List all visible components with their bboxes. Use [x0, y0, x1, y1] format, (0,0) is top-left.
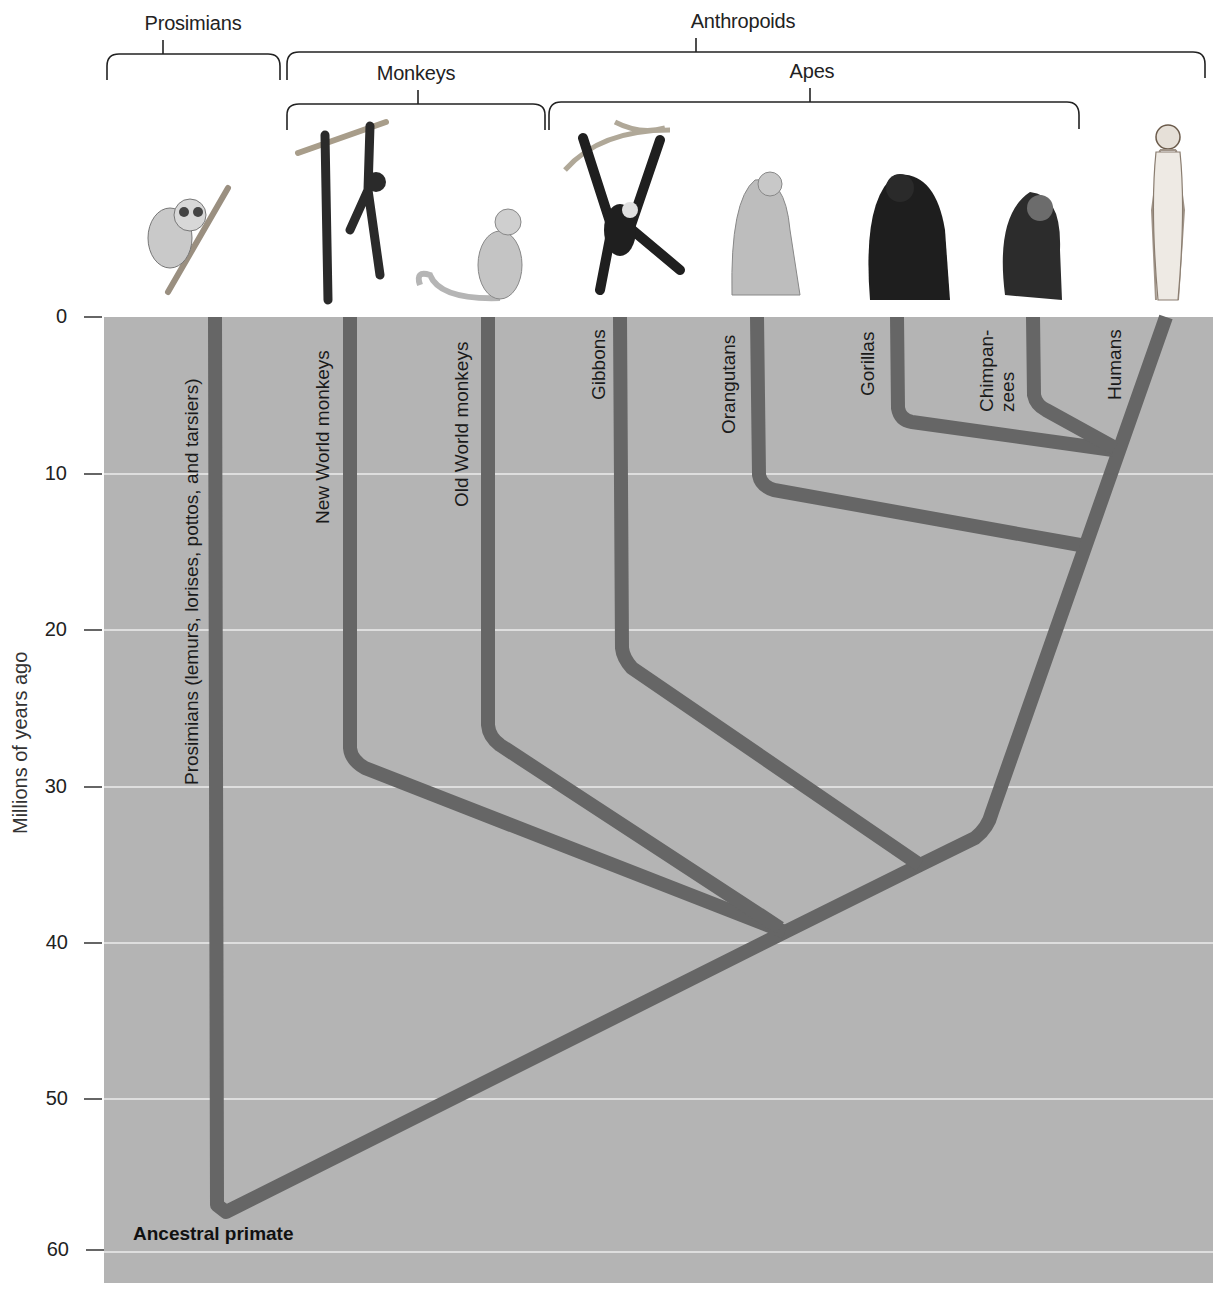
gorilla-illustration: [868, 174, 950, 300]
loris-illustration: [148, 188, 228, 292]
branch-label-prosimians: Prosimians (lemurs, lorises, pottos, and…: [181, 378, 202, 785]
chimpanzee-illustration: [1003, 192, 1062, 300]
orangutan-illustration: [732, 172, 800, 295]
group-label-prosimians: Prosimians: [145, 12, 242, 35]
branch-label-new-world-monkeys: New World monkeys: [312, 350, 333, 524]
tick-label-20: 20: [17, 618, 67, 641]
y-axis-title: Millions of years ago: [9, 652, 32, 834]
group-brackets: [107, 38, 1205, 130]
tick-label-60: 60: [19, 1238, 69, 1261]
branch-label-gibbons: Gibbons: [588, 329, 609, 400]
branch-label-gorillas: Gorillas: [857, 332, 878, 396]
plot-area: [104, 317, 1213, 1283]
gibbon-illustration: [565, 122, 680, 290]
branch-label-humans: Humans: [1104, 329, 1125, 400]
human-illustration: [1152, 125, 1184, 300]
branch-label-orangutans: Orangutans: [718, 335, 739, 434]
root-label-ancestral-primate: Ancestral primate: [133, 1223, 294, 1245]
tick-label-50: 50: [18, 1087, 68, 1110]
macaque-illustration: [419, 209, 522, 299]
group-label-apes: Apes: [790, 60, 835, 83]
tick-label-0: 0: [17, 305, 67, 328]
branch-label-chimpanzees-2: zees: [997, 372, 1018, 412]
spider-monkey-illustration: [298, 122, 386, 300]
bracket-monkeys: [287, 104, 545, 130]
y-axis-ticks: [84, 317, 104, 1250]
tick-label-10: 10: [17, 462, 67, 485]
group-label-monkeys: Monkeys: [377, 62, 456, 85]
bracket-prosimians: [107, 54, 280, 80]
group-label-anthropoids: Anthropoids: [691, 10, 796, 33]
tick-label-40: 40: [18, 931, 68, 954]
branch-label-old-world-monkeys: Old World monkeys: [451, 342, 472, 507]
branch-label-chimpanzees-1: Chimpan-: [976, 330, 997, 412]
